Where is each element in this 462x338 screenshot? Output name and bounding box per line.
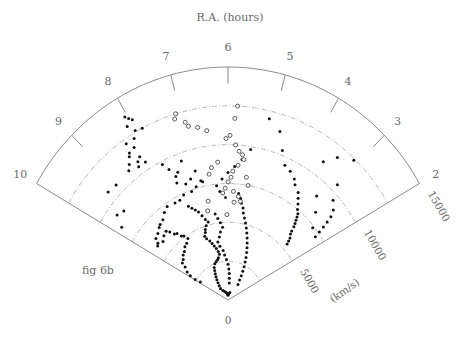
data-point bbox=[219, 231, 222, 234]
data-point-open bbox=[228, 133, 232, 137]
ra-tick-label: 10 bbox=[13, 168, 27, 181]
data-point bbox=[183, 245, 186, 248]
data-point bbox=[156, 245, 159, 248]
data-point bbox=[245, 227, 248, 230]
data-point bbox=[204, 218, 207, 221]
data-point bbox=[126, 125, 129, 128]
data-point bbox=[218, 245, 221, 248]
data-point bbox=[165, 230, 168, 233]
data-point bbox=[207, 221, 210, 224]
data-point bbox=[228, 277, 231, 280]
data-point bbox=[242, 207, 245, 210]
data-point bbox=[352, 159, 355, 162]
data-point bbox=[336, 156, 339, 159]
radial-axis-unit: (km/s) bbox=[327, 276, 361, 305]
data-point bbox=[227, 171, 230, 174]
data-point bbox=[189, 274, 192, 277]
data-point bbox=[315, 195, 318, 198]
data-point bbox=[217, 250, 220, 253]
velocity-tick-label: 5000 bbox=[298, 266, 322, 295]
data-point bbox=[197, 211, 200, 214]
data-point bbox=[292, 225, 295, 228]
data-point bbox=[311, 226, 314, 229]
data-point bbox=[228, 272, 231, 275]
data-point-open bbox=[244, 175, 248, 179]
data-point bbox=[127, 117, 130, 120]
data-point bbox=[218, 253, 221, 256]
data-point bbox=[241, 270, 244, 273]
data-point bbox=[194, 170, 197, 173]
velocity-tick-label: 10000 bbox=[362, 227, 389, 262]
data-point bbox=[297, 191, 300, 194]
data-point bbox=[296, 212, 299, 215]
data-point bbox=[245, 251, 248, 254]
data-point bbox=[154, 237, 157, 240]
chart-title: R.A. (hours) bbox=[197, 11, 264, 24]
data-point bbox=[216, 241, 219, 244]
data-point bbox=[128, 155, 131, 158]
ra-tick bbox=[281, 75, 285, 91]
ra-tick-label: 9 bbox=[55, 115, 62, 128]
data-point bbox=[228, 291, 231, 294]
grid-arc bbox=[69, 106, 388, 203]
ra-tick bbox=[373, 135, 384, 147]
data-point bbox=[125, 142, 128, 145]
data-point-open bbox=[242, 158, 246, 162]
data-point bbox=[176, 171, 179, 174]
data-point bbox=[137, 165, 140, 168]
data-point bbox=[116, 214, 119, 217]
data-point bbox=[189, 177, 192, 180]
data-point bbox=[175, 181, 178, 184]
data-point bbox=[174, 175, 177, 178]
data-point bbox=[219, 287, 222, 290]
ra-tick-label: 8 bbox=[105, 75, 112, 88]
data-point bbox=[184, 183, 187, 186]
data-point bbox=[190, 207, 193, 210]
ra-tick bbox=[72, 135, 83, 147]
data-point bbox=[184, 266, 187, 269]
data-point-open bbox=[234, 143, 238, 147]
data-point bbox=[182, 254, 185, 257]
ra-tick bbox=[171, 75, 175, 91]
data-point bbox=[245, 256, 248, 259]
data-point-open bbox=[241, 153, 245, 157]
data-point bbox=[182, 234, 185, 237]
data-point bbox=[326, 220, 329, 223]
data-point-open bbox=[186, 124, 190, 128]
data-point bbox=[297, 197, 300, 200]
data-point bbox=[233, 165, 236, 168]
data-point-open bbox=[173, 117, 177, 121]
data-point bbox=[242, 211, 245, 214]
data-point bbox=[243, 265, 246, 268]
data-point bbox=[141, 127, 144, 130]
data-point bbox=[214, 272, 217, 275]
data-point bbox=[215, 278, 218, 281]
data-point bbox=[336, 183, 339, 186]
ra-tick-label: 4 bbox=[344, 75, 351, 88]
data-point bbox=[322, 160, 325, 163]
data-point bbox=[195, 185, 198, 188]
data-point bbox=[243, 217, 246, 220]
data-point bbox=[199, 281, 202, 284]
data-point-open bbox=[229, 175, 233, 179]
data-point bbox=[290, 230, 293, 233]
data-point bbox=[223, 254, 226, 257]
data-point bbox=[205, 224, 208, 227]
data-point bbox=[221, 178, 224, 181]
data-point-open bbox=[236, 195, 240, 199]
ra-tick-label: 7 bbox=[162, 50, 169, 63]
data-point bbox=[213, 269, 216, 272]
data-point bbox=[156, 242, 159, 245]
data-point bbox=[332, 199, 335, 202]
data-point bbox=[222, 249, 225, 252]
data-point bbox=[211, 242, 214, 245]
data-point bbox=[178, 199, 181, 202]
ra-tick bbox=[331, 98, 339, 112]
data-point bbox=[136, 160, 139, 163]
data-point-open bbox=[233, 116, 237, 120]
data-point bbox=[190, 190, 193, 193]
data-point bbox=[283, 164, 286, 167]
data-point bbox=[107, 191, 110, 194]
data-point bbox=[163, 211, 166, 214]
ra-tick-labels: 2345678910 bbox=[13, 41, 439, 180]
